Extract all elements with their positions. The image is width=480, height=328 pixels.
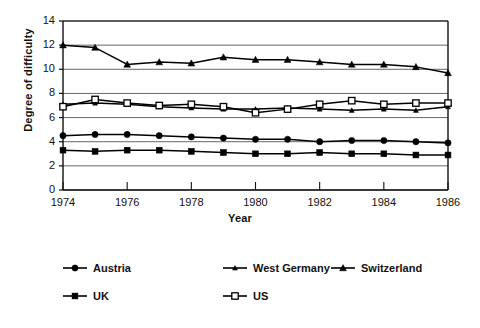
marker-filled-circle <box>445 140 451 146</box>
legend-item-uk[interactable]: UK <box>62 282 109 310</box>
marker-filled-circle <box>284 136 290 142</box>
marker-filled-square <box>253 151 259 157</box>
marker-filled-square <box>124 147 130 153</box>
marker-open-square <box>284 106 290 112</box>
marker-filled-circle <box>92 131 98 137</box>
marker-filled-square <box>60 147 66 153</box>
legend-item-west-germany[interactable]: West Germany <box>222 254 330 282</box>
marker-open-square <box>445 100 451 106</box>
series-switzerland <box>60 42 452 76</box>
legend-label: Switzerland <box>361 262 422 274</box>
marker-filled-circle <box>156 133 162 139</box>
legend-marker-filled-square <box>62 290 88 302</box>
legend-marker-open-square <box>222 290 248 302</box>
marker-filled-square <box>285 151 291 157</box>
legend-item-austria[interactable]: Austria <box>62 254 131 282</box>
marker-filled-square <box>381 151 387 157</box>
marker-filled-square <box>92 148 98 154</box>
marker-filled-circle <box>60 133 66 139</box>
marker-open-square <box>316 101 322 107</box>
marker-filled-circle <box>252 136 258 142</box>
series-uk <box>60 147 451 158</box>
chart-legend: AustriaWest GermanySwitzerlandUKUS <box>62 254 462 310</box>
marker-open-square <box>381 101 387 107</box>
marker-filled-circle <box>72 265 78 271</box>
marker-open-square <box>220 104 226 110</box>
marker-filled-square <box>445 152 451 158</box>
legend-row: UKUS <box>62 282 462 310</box>
legend-label: Austria <box>93 262 131 274</box>
legend-label: US <box>253 290 268 302</box>
marker-filled-square <box>156 147 162 153</box>
marker-filled-square <box>72 293 78 299</box>
legend-label: West Germany <box>253 262 330 274</box>
legend-item-switzerland[interactable]: Switzerland <box>330 254 422 282</box>
marker-open-square <box>156 102 162 108</box>
marker-open-square <box>252 110 258 116</box>
marker-open-square <box>188 101 194 107</box>
marker-filled-square <box>317 150 323 156</box>
marker-open-square <box>232 293 238 299</box>
legend-marker-triangle <box>330 262 356 274</box>
marker-open-square <box>124 100 130 106</box>
marker-open-square <box>349 97 355 103</box>
legend-marker-filled-circle <box>62 262 88 274</box>
marker-filled-circle <box>413 139 419 145</box>
marker-open-square <box>60 104 66 110</box>
marker-open-square <box>413 100 419 106</box>
marker-filled-circle <box>381 137 387 143</box>
marker-filled-circle <box>317 139 323 145</box>
marker-filled-circle <box>188 134 194 140</box>
legend-marker-small-triangle <box>222 262 248 274</box>
marker-filled-square <box>221 150 227 156</box>
line-chart-figure: Degree of difficulty Year 02468101214 19… <box>0 0 480 328</box>
marker-filled-square <box>188 148 194 154</box>
marker-filled-circle <box>220 135 226 141</box>
legend-label: UK <box>93 290 109 302</box>
marker-filled-circle <box>124 131 130 137</box>
marker-open-square <box>92 96 98 102</box>
legend-row: AustriaWest GermanySwitzerland <box>62 254 462 282</box>
marker-filled-square <box>349 151 355 157</box>
legend-item-us[interactable]: US <box>222 282 268 310</box>
marker-filled-square <box>413 152 419 158</box>
series-austria <box>60 131 451 146</box>
marker-filled-circle <box>349 137 355 143</box>
